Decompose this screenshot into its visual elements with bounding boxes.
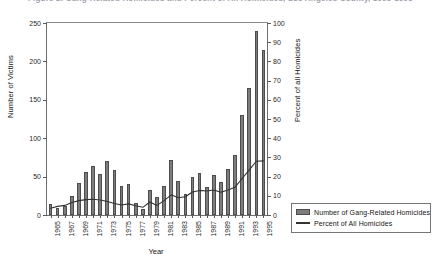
right-tick (267, 177, 271, 178)
bar-swatch-icon (296, 209, 310, 215)
x-tick (86, 215, 87, 218)
x-tick-label: 1987 (210, 221, 217, 237)
x-tick (100, 215, 101, 218)
legend-label: Percent of All Homicides (314, 220, 392, 227)
legend-label: Number of Gang-Related Homicides (314, 209, 430, 216)
left-tick (43, 100, 47, 101)
x-tick-label: 1993 (252, 221, 259, 237)
x-tick (143, 215, 144, 218)
x-tick (263, 215, 264, 218)
x-tick (129, 215, 130, 218)
left-tick-label: 250 (17, 20, 41, 27)
right-tick-label: 70 (273, 77, 281, 84)
chart-figure: Figure 2. Gang-Related Homicides and Per… (0, 0, 436, 264)
x-tick-label: 1995 (266, 221, 273, 237)
x-tick-label: 1981 (167, 221, 174, 237)
x-tick (214, 215, 215, 218)
x-tick-label: 1965 (54, 221, 61, 237)
x-tick-label: 1971 (96, 221, 103, 237)
right-tick-label: 10 (273, 192, 281, 199)
left-tick (43, 61, 47, 62)
legend: Number of Gang-Related Homicides Percent… (291, 203, 431, 233)
line-series (47, 23, 267, 215)
x-tick-label: 1975 (125, 221, 132, 237)
x-tick (72, 215, 73, 218)
x-tick (65, 215, 66, 218)
x-tick (79, 215, 80, 218)
right-tick (267, 23, 271, 24)
right-tick (267, 61, 271, 62)
x-tick (114, 215, 115, 218)
right-tick-label: 0 (273, 212, 277, 219)
x-tick (93, 215, 94, 218)
x-tick (107, 215, 108, 218)
x-tick (157, 215, 158, 218)
legend-item-line: Percent of All Homicides (296, 218, 426, 228)
x-tick-label: 1989 (224, 221, 231, 237)
legend-item-bars: Number of Gang-Related Homicides (296, 207, 426, 217)
right-tick-label: 40 (273, 135, 281, 142)
right-tick (267, 81, 271, 82)
right-tick-label: 20 (273, 173, 281, 180)
percent-line-path (51, 161, 264, 208)
right-tick (267, 215, 271, 216)
left-tick (43, 138, 47, 139)
x-tick (256, 215, 257, 218)
left-tick-label: 200 (17, 58, 41, 65)
right-axis-title: Percent of all Homicides (293, 39, 302, 122)
x-tick-label: 1985 (195, 221, 202, 237)
x-tick (235, 215, 236, 218)
left-tick-label: 0 (17, 212, 41, 219)
x-tick (207, 215, 208, 218)
x-tick (185, 215, 186, 218)
x-tick-label: 1991 (238, 221, 245, 237)
x-tick (51, 215, 52, 218)
left-tick (43, 23, 47, 24)
right-tick (267, 100, 271, 101)
right-tick-label: 30 (273, 154, 281, 161)
x-tick-label: 1983 (181, 221, 188, 237)
x-tick (136, 215, 137, 218)
x-tick (192, 215, 193, 218)
x-tick (200, 215, 201, 218)
plot-area: 050100150200250 0102030405060708090100 1… (46, 22, 268, 216)
right-tick-label: 50 (273, 116, 281, 123)
left-axis-title: Number of Victims (6, 55, 15, 118)
x-tick (58, 215, 59, 218)
right-tick-label: 100 (273, 20, 285, 27)
left-tick-label: 50 (17, 173, 41, 180)
x-tick (122, 215, 123, 218)
x-axis-title: Year (0, 247, 312, 256)
x-tick-label: 1967 (68, 221, 75, 237)
x-tick-label: 1969 (82, 221, 89, 237)
x-tick (164, 215, 165, 218)
x-tick (249, 215, 250, 218)
x-tick-label: 1973 (110, 221, 117, 237)
right-tick-label: 90 (273, 39, 281, 46)
right-tick (267, 42, 271, 43)
x-tick (178, 215, 179, 218)
right-tick (267, 196, 271, 197)
left-tick-label: 150 (17, 96, 41, 103)
x-tick-label: 1977 (139, 221, 146, 237)
left-tick-label: 100 (17, 135, 41, 142)
right-tick-label: 60 (273, 96, 281, 103)
x-tick-label: 1979 (153, 221, 160, 237)
x-tick (150, 215, 151, 218)
line-swatch-icon (296, 220, 310, 226)
right-tick (267, 157, 271, 158)
left-tick (43, 215, 47, 216)
left-tick (43, 177, 47, 178)
x-tick (171, 215, 172, 218)
x-tick (221, 215, 222, 218)
right-tick-label: 80 (273, 58, 281, 65)
figure-title: Figure 2. Gang-Related Homicides and Per… (28, 0, 418, 3)
x-tick (242, 215, 243, 218)
right-tick (267, 119, 271, 120)
right-tick (267, 138, 271, 139)
x-tick (228, 215, 229, 218)
